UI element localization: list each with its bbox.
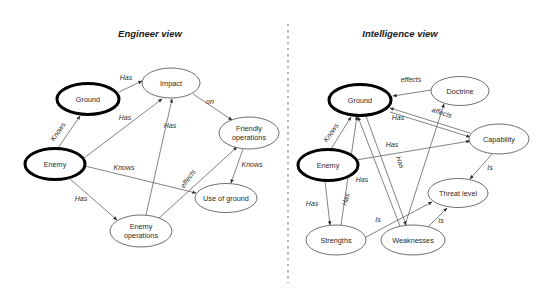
edge-eng-enemyops-to-eng-impact xyxy=(146,99,172,215)
edge-label-i12: Is xyxy=(438,217,444,224)
node-int-ground[interactable]: Ground xyxy=(329,85,391,116)
edge-label-i13: Is xyxy=(487,164,493,171)
node-int-capability[interactable]: Capability xyxy=(469,124,529,154)
edge-int-weaknesses-to-int-ground xyxy=(358,117,400,226)
node-label: Weaknesses xyxy=(392,236,434,245)
edge-label-i7: Has xyxy=(306,200,319,207)
node-int-enemy[interactable]: Enemy xyxy=(298,150,358,181)
node-label: Strengths xyxy=(320,236,352,245)
edge-label-i3: Has xyxy=(392,114,405,121)
edge-int-enemy-to-int-strengths xyxy=(325,181,330,225)
node-eng-impact[interactable]: Impact xyxy=(142,68,200,98)
node-eng-useground[interactable]: Use of ground xyxy=(195,184,257,213)
node-int-doctrine[interactable]: Doctrine xyxy=(431,77,489,106)
node-label: Ground xyxy=(348,96,372,105)
diagram-page: GroundImpactEnemyFriendlyoperationsUse o… xyxy=(0,0,551,295)
node-label: Enemy xyxy=(317,161,340,170)
node-label: Use of ground xyxy=(203,194,249,203)
node-label: Doctrine xyxy=(446,87,473,96)
edge-label-e3: Has xyxy=(119,114,132,121)
node-label: Impact xyxy=(160,79,182,88)
edge-label-i9: Has xyxy=(395,155,406,170)
edge-int-weaknesses-to-int-doctrine xyxy=(405,104,444,225)
edge-label-i8: Has xyxy=(341,192,351,206)
edge-label-e9: Knows xyxy=(241,161,263,168)
edge-label-i11: Is xyxy=(375,216,381,223)
node-eng-enemy[interactable]: Enemy xyxy=(25,149,85,180)
panel-titles-layer: Engineer viewIntelligence view xyxy=(118,28,438,39)
node-label: Enemy xyxy=(44,160,67,169)
node-label: operations xyxy=(232,133,266,142)
edge-eng-ground-to-eng-impact xyxy=(119,81,142,92)
node-label: Ground xyxy=(76,95,100,104)
node-eng-friendly[interactable]: Friendlyoperations xyxy=(219,117,279,149)
panel-title-intelligence: Intelligence view xyxy=(362,28,438,39)
concept-map-diagram: GroundImpactEnemyFriendlyoperationsUse o… xyxy=(0,0,551,295)
node-label: Capability xyxy=(483,135,515,144)
edge-label-e7: Has xyxy=(75,195,88,202)
edge-label-i1: effects xyxy=(401,76,422,83)
node-int-strengths[interactable]: Strengths xyxy=(306,225,366,255)
edges-layer xyxy=(58,81,492,237)
node-int-threat[interactable]: Threat level xyxy=(428,179,488,208)
node-label: operations xyxy=(124,231,158,240)
edge-label-e1: Has xyxy=(120,74,133,81)
edge-label-i2: Knows xyxy=(322,122,340,144)
edge-label-i4: affects xyxy=(431,106,453,119)
node-eng-ground[interactable]: Ground xyxy=(57,84,119,115)
edge-label-e4: Has xyxy=(164,122,177,129)
edge-eng-enemy-to-eng-useground xyxy=(85,166,196,193)
nodes-layer: GroundImpactEnemyFriendlyoperationsUse o… xyxy=(25,68,529,255)
edge-int-ground-to-int-weaknesses xyxy=(366,116,406,225)
edge-int-doctrine-to-int-ground xyxy=(393,90,431,96)
edge-label-e5: on xyxy=(206,98,214,105)
edge-label-i6: Has xyxy=(386,141,399,148)
node-int-weaknesses[interactable]: Weaknesses xyxy=(381,225,445,255)
node-eng-enemyops[interactable]: Enemyoperations xyxy=(110,215,172,247)
panel-title-engineer: Engineer view xyxy=(118,28,182,39)
edge-label-i10: Has xyxy=(356,176,369,183)
node-label: Threat level xyxy=(439,189,478,198)
edge-label-e6: Knows xyxy=(113,164,135,171)
